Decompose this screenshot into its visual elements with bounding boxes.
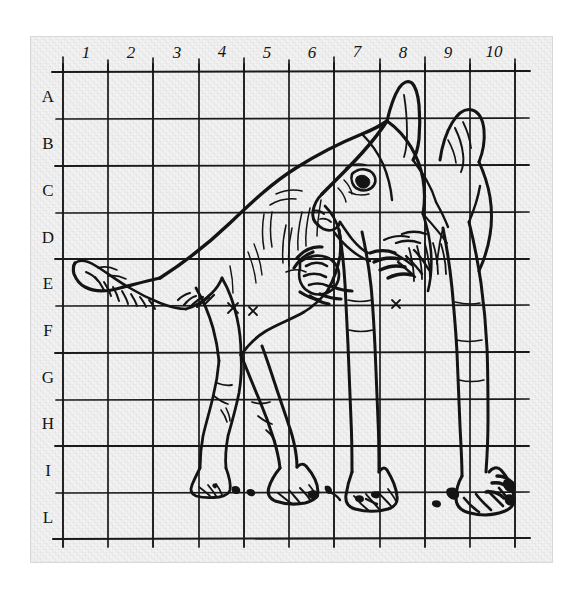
column-label-7: 7 <box>353 42 363 61</box>
row-label-B: B <box>42 134 53 153</box>
column-label-3: 3 <box>172 43 182 62</box>
column-label-2: 2 <box>127 43 136 62</box>
column-label-1: 1 <box>82 43 91 62</box>
row-label-C: C <box>42 181 53 200</box>
grid-column-labels: 1 2 3 4 5 6 7 8 9 10 <box>82 42 503 62</box>
row-label-H: H <box>42 414 54 433</box>
column-label-4: 4 <box>218 42 227 61</box>
scan-sheet: 1 2 3 4 5 6 7 8 9 10 A B C D E F G H I L <box>0 0 583 600</box>
row-label-E: E <box>43 274 53 293</box>
drawing-canvas: 1 2 3 4 5 6 7 8 9 10 A B C D E F G H I L <box>0 0 583 600</box>
row-label-D: D <box>42 228 54 247</box>
column-label-9: 9 <box>444 43 453 62</box>
row-label-A: A <box>42 87 55 106</box>
column-label-5: 5 <box>263 43 272 62</box>
grid-row-labels: A B C D E F G H I L <box>42 87 55 527</box>
column-label-6: 6 <box>308 43 317 62</box>
row-label-I: I <box>45 461 51 480</box>
row-label-F: F <box>43 321 52 340</box>
dog-sketch <box>73 82 516 515</box>
row-label-G: G <box>42 368 54 387</box>
column-label-10: 10 <box>486 42 504 61</box>
column-label-8: 8 <box>399 43 408 62</box>
row-label-L: L <box>43 508 53 527</box>
